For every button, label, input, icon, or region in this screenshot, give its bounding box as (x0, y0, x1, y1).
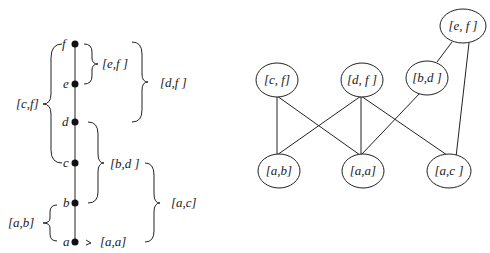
node-label: [e, f ] (448, 18, 477, 33)
node-ef: [e, f ] (440, 9, 486, 43)
node-ac: [a,c ] (427, 154, 471, 188)
node-label: [c, f] (264, 72, 290, 87)
diagram-canvas: f e d c b a [e,f ] [d,f ] [c,f] (0, 0, 490, 253)
interval-label-df: [d,f ] (160, 75, 187, 90)
interval-label-aa: [a,a] (100, 234, 126, 249)
chain-point-d: d (62, 114, 79, 129)
point-label: c (63, 155, 69, 170)
interval-label-cf: [c,f] (16, 96, 39, 111)
node-cf: [c, f] (256, 63, 298, 97)
brace-aa (86, 240, 91, 245)
chain-point-f: f (62, 36, 79, 51)
edge-df-ac (361, 96, 447, 155)
interval-graph: [e, f ] [c, f] [d, f ] [b,d ] [a,b] [a,a… (256, 9, 486, 188)
brace-ef (84, 44, 98, 84)
brace-ab (43, 205, 57, 241)
chain-diagram: f e d c b a [e,f ] [d,f ] [c,f] (8, 36, 197, 249)
node-aa: [a,a] (342, 154, 384, 188)
graph-edges (277, 42, 469, 157)
edge-ef-ac (456, 43, 469, 157)
chain-point-e: e (63, 76, 79, 91)
brace-df (132, 42, 148, 122)
point-label: e (63, 76, 69, 91)
node-bd: [b,d ] (406, 61, 448, 95)
point-label: b (63, 195, 70, 210)
node-df: [d, f ] (341, 63, 383, 97)
interval-label-ac: [a,c] (171, 195, 197, 210)
edge-ef-bd (437, 42, 452, 62)
brace-bd (88, 122, 104, 203)
point-label: f (62, 36, 68, 51)
chain-point-a: a (63, 234, 79, 249)
interval-label-bd: [b,d ] (110, 156, 140, 171)
chain-point-b: b (63, 195, 79, 210)
point-label: a (63, 234, 70, 249)
brace-cf (43, 44, 62, 163)
point-label: d (62, 114, 69, 129)
node-label: [d, f ] (347, 72, 377, 87)
node-label: [a,a] (350, 163, 376, 178)
node-label: [b,d ] (412, 70, 442, 85)
node-ab: [a,b] (258, 154, 300, 188)
node-label: [a,c ] (435, 163, 464, 178)
brace-ac (145, 163, 160, 242)
interval-label-ef: [e,f ] (102, 56, 128, 71)
interval-label-ab: [a,b] (8, 215, 34, 230)
chain-point-c: c (63, 155, 79, 170)
node-label: [a,b] (266, 163, 292, 178)
